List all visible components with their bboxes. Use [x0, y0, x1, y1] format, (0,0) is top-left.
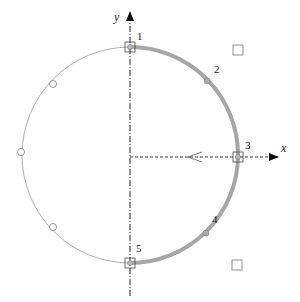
point-label-1: 1: [137, 30, 143, 42]
point-4: [203, 230, 209, 236]
open-circle-marker: [18, 149, 25, 156]
square-marker: [233, 45, 243, 55]
open-circle-marker: [50, 81, 57, 88]
point-label-4: 4: [212, 213, 218, 225]
x-axis-label: x: [280, 141, 287, 155]
y-axis-label: y: [113, 10, 120, 24]
diagram-canvas: y x 1 2 3 4 5: [0, 0, 300, 302]
point-label-5: 5: [136, 242, 142, 254]
point-2: [204, 78, 210, 84]
square-marker: [232, 260, 242, 270]
highlighted-arc: [130, 47, 238, 263]
point-label-2: 2: [214, 63, 220, 75]
open-circle-marker: [50, 224, 57, 231]
circle-diagram: y x 1 2 3 4 5: [0, 0, 300, 302]
point-label-3: 3: [245, 139, 251, 151]
